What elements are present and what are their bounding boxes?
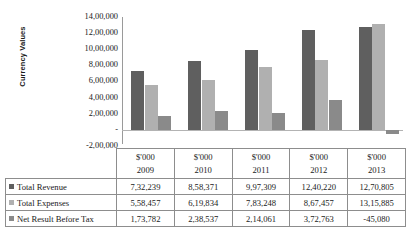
bar-group: [359, 17, 399, 130]
y-axis-tick-label: 14,00,000: [52, 13, 118, 21]
table-cell: 6,19,834: [174, 195, 232, 211]
table-cell: 7,32,239: [117, 179, 175, 195]
legend-entry: Total Expenses: [6, 195, 117, 211]
chart-figure: Currency Values 14,00,00012,00,00010,00,…: [0, 0, 409, 242]
y-axis-tick-labels: 14,00,00012,00,00010,00,0008,00,0006,00,…: [52, 13, 118, 143]
bar-group: [245, 17, 285, 130]
legend-label: Total Revenue: [17, 182, 67, 192]
bar: [315, 60, 328, 130]
bar: [245, 50, 258, 130]
table-cell: 1,73,782: [117, 211, 175, 227]
bar: [372, 24, 385, 130]
table-cell: 3,72,763: [290, 211, 348, 227]
header-unit: $'000: [117, 151, 174, 164]
bar-chart: Currency Values 14,00,00012,00,00010,00,…: [0, 0, 409, 150]
table-cell: 7,83,248: [232, 195, 290, 211]
bar: [259, 67, 272, 130]
bar-group: [188, 17, 228, 130]
header-unit: $'000: [175, 151, 232, 164]
table-cell: -45,080: [348, 211, 406, 227]
table-cell: 12,40,220: [290, 179, 348, 195]
bar: [202, 80, 215, 130]
bar-group: [131, 17, 171, 130]
bar: [145, 85, 158, 130]
data-table: $'0002009$'0002010$'0002011$'0002012$'00…: [5, 148, 406, 227]
legend-swatch-icon: [9, 200, 14, 205]
legend-label: Net Result Before Tax: [17, 214, 94, 224]
bar: [302, 30, 315, 130]
y-axis-tick-label: 8,00,000: [52, 61, 118, 69]
table-row: Total Revenue7,32,2398,58,3719,97,30912,…: [6, 179, 406, 195]
table-cell: 13,15,885: [348, 195, 406, 211]
table-cell: 2,14,061: [232, 211, 290, 227]
bar: [359, 27, 372, 130]
y-axis-tick-label: 10,00,000: [52, 45, 118, 53]
legend-entry: Total Revenue: [6, 179, 117, 195]
table-column-header: $'0002012: [290, 149, 348, 179]
y-axis-tick-label: -: [52, 126, 118, 134]
bar: [131, 71, 144, 130]
header-year: 2010: [175, 164, 232, 177]
table-cell: 2,38,537: [174, 211, 232, 227]
y-axis-title: Currency Values: [18, 7, 27, 107]
legend-swatch-icon: [9, 184, 14, 189]
table-column-header: $'0002013: [348, 149, 406, 179]
table-cell: 9,97,309: [232, 179, 290, 195]
table-column-header: $'0002010: [174, 149, 232, 179]
table-header-row: $'0002009$'0002010$'0002011$'0002012$'00…: [6, 149, 406, 179]
header-year: 2011: [233, 164, 290, 177]
header-unit: $'000: [233, 151, 290, 164]
table-row: Net Result Before Tax1,73,7822,38,5372,1…: [6, 211, 406, 227]
bar: [158, 116, 171, 130]
table-cell: 8,67,457: [290, 195, 348, 211]
y-axis-tick-label: 2,00,000: [52, 110, 118, 118]
legend-entry: Net Result Before Tax: [6, 211, 117, 227]
y-axis-tick-label: 4,00,000: [52, 94, 118, 102]
y-axis-tick-label: 12,00,000: [52, 29, 118, 37]
bar: [329, 100, 342, 130]
table-body: Total Revenue7,32,2398,58,3719,97,30912,…: [6, 179, 406, 227]
legend-swatch-icon: [9, 216, 14, 221]
bar: [215, 111, 228, 130]
plot-area: [122, 17, 403, 144]
table-cell: 5,58,457: [117, 195, 175, 211]
header-year: 2013: [348, 164, 405, 177]
legend-label: Total Expenses: [17, 198, 69, 208]
y-axis-line: [122, 17, 123, 144]
header-unit: $'000: [290, 151, 347, 164]
y-axis-tick-label: 6,00,000: [52, 77, 118, 85]
zero-baseline: [122, 130, 403, 131]
table-cell: 12,70,805: [348, 179, 406, 195]
table-column-header: $'0002009: [117, 149, 175, 179]
header-year: 2012: [290, 164, 347, 177]
header-year: 2009: [117, 164, 174, 177]
bar: [188, 61, 201, 130]
table-row: Total Expenses5,58,4576,19,8347,83,2488,…: [6, 195, 406, 211]
table-column-header: $'0002011: [232, 149, 290, 179]
data-table-legend: $'0002009$'0002010$'0002011$'0002012$'00…: [5, 148, 406, 227]
table-corner-cell: [6, 149, 117, 179]
table-cell: 8,58,371: [174, 179, 232, 195]
bar-group: [302, 17, 342, 130]
bar: [386, 130, 399, 134]
header-unit: $'000: [348, 151, 405, 164]
bar: [272, 113, 285, 130]
